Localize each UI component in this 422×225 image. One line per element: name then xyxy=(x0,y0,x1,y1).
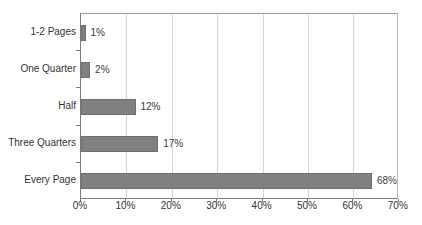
x-axis-tick-label: 40% xyxy=(252,201,272,211)
bar-row: 17% xyxy=(81,126,397,163)
bar xyxy=(81,173,372,189)
y-axis-category-label: Every Page xyxy=(1,175,76,185)
x-axis-tick-label: 50% xyxy=(297,201,317,211)
x-axis-tick-label: 20% xyxy=(161,201,181,211)
y-axis-category-label: Half xyxy=(1,101,76,111)
y-axis-labels: 1-2 Pages One Quarter Half Three Quarter… xyxy=(0,13,76,199)
bar-row: 12% xyxy=(81,88,397,125)
bar-row: 2% xyxy=(81,51,397,88)
bar-value-label: 68% xyxy=(377,176,397,186)
bar-chart: 1-2 Pages One Quarter Half Three Quarter… xyxy=(0,0,422,225)
bar-value-label: 2% xyxy=(95,65,109,75)
bar-value-label: 12% xyxy=(141,102,161,112)
x-axis-tick-label: 30% xyxy=(206,201,226,211)
bar-row: 1% xyxy=(81,14,397,51)
plot-area: 1% 2% 12% 17% 68% xyxy=(80,13,398,199)
x-axis-tick-label: 0% xyxy=(73,201,87,211)
y-axis-category-label: One Quarter xyxy=(1,64,76,74)
bar-value-label: 17% xyxy=(163,139,183,149)
x-axis-tick-label: 10% xyxy=(115,201,135,211)
bar-row: 68% xyxy=(81,163,397,200)
y-axis-category-label: Three Quarters xyxy=(1,138,76,148)
x-axis-labels: 0% 10% 20% 30% 40% 50% 60% 70% xyxy=(0,201,422,217)
bar xyxy=(81,62,90,78)
y-axis-category-label: 1-2 Pages xyxy=(1,27,76,37)
bar-value-label: 1% xyxy=(91,28,105,38)
x-axis-tick-label: 70% xyxy=(388,201,408,211)
bar xyxy=(81,25,86,41)
bar xyxy=(81,136,158,152)
bar xyxy=(81,99,136,115)
x-axis-tick-label: 60% xyxy=(342,201,362,211)
